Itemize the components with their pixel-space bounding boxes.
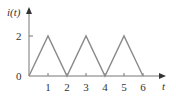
x-axis-arrow-icon — [159, 73, 166, 79]
y-tick-label-0: 0 — [16, 70, 22, 82]
x-tick-label-5: 5 — [121, 81, 127, 93]
x-tick-label-2: 2 — [64, 81, 70, 93]
series-line — [29, 36, 143, 76]
x-axis-label: t — [162, 80, 166, 92]
y-tick-label-2: 2 — [16, 30, 22, 42]
x-tick-label-4: 4 — [102, 81, 108, 93]
triangle-wave-chart: i(t) t 2 0 123456 — [0, 0, 176, 96]
y-axis-arrow-icon — [26, 7, 32, 14]
x-tick-label-3: 3 — [83, 81, 89, 93]
x-tick-label-1: 1 — [45, 81, 51, 93]
x-tick-label-6: 6 — [140, 81, 146, 93]
x-tick-labels: 123456 — [45, 81, 146, 93]
y-axis-label: i(t) — [7, 6, 21, 19]
